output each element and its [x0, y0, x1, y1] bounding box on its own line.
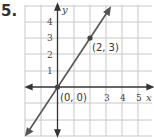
- y-tick-3: 3: [47, 33, 53, 43]
- y-axis: [55, 4, 60, 136]
- y-tick-2: 2: [47, 50, 53, 60]
- grid: [25, 5, 152, 136]
- x-axis-label: x: [146, 92, 152, 103]
- coordinate-graph: y x 4 3 2 1 3 4 5 (0, 0) (2, 3): [0, 0, 154, 139]
- line-down-arrow-icon: [26, 129, 32, 136]
- x-tick-5: 5: [136, 93, 142, 103]
- y-tick-4: 4: [47, 17, 53, 27]
- x-tick-3: 3: [104, 93, 110, 103]
- point-label-2-3: (2, 3): [92, 42, 119, 53]
- point-label-origin: (0, 0): [60, 92, 87, 103]
- x-axis-right-arrow-icon: [147, 85, 153, 90]
- point-2-3: [87, 35, 92, 40]
- x-tick-4: 4: [120, 93, 126, 103]
- y-axis-down-arrow-icon: [55, 130, 60, 136]
- y-axis-up-arrow-icon: [55, 4, 60, 10]
- x-axis-left-arrow-icon: [26, 85, 32, 90]
- y-tick-1: 1: [47, 66, 53, 76]
- y-axis-label: y: [61, 4, 68, 15]
- point-origin: [55, 84, 60, 89]
